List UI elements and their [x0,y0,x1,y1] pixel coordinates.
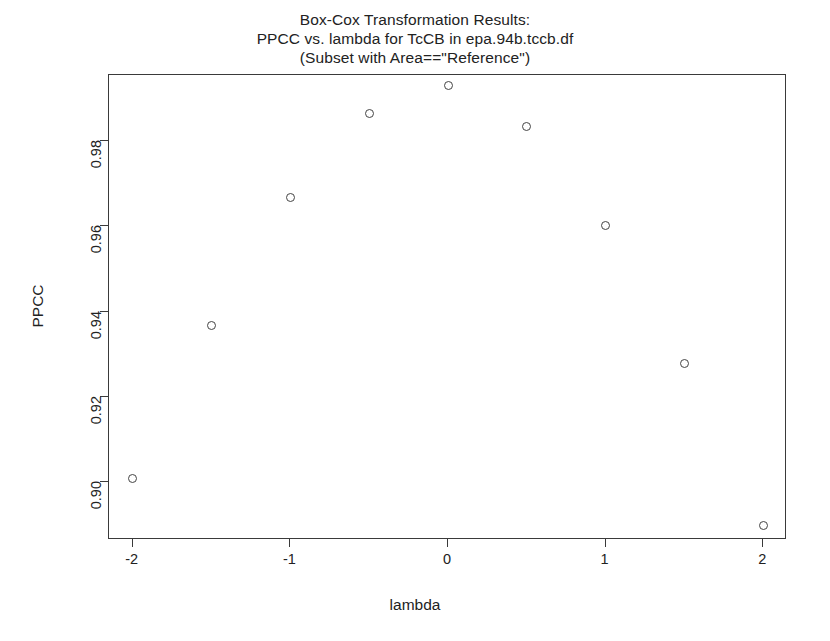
data-point [365,109,374,118]
y-axis-tick-label: 0.96 [88,225,104,253]
x-axis-tick-label: 2 [758,551,766,567]
chart-title: Box-Cox Transformation Results: PPCC vs.… [0,10,830,67]
x-axis-tick-label: -2 [125,551,138,567]
y-axis-tick-label: 0.94 [88,311,104,339]
x-axis-tick [605,539,606,547]
y-axis-tick-label: 0.98 [88,140,104,168]
x-axis: -2-1012 [108,539,786,579]
data-point [128,474,137,483]
figure-canvas: Box-Cox Transformation Results: PPCC vs.… [0,0,830,641]
data-point [444,81,453,90]
y-axis-tick-label: 0.92 [88,396,104,424]
data-point [601,221,610,230]
data-point [680,359,689,368]
x-axis-tick [289,539,290,547]
data-point [207,321,216,330]
y-axis-title: PPCC [29,284,47,327]
x-axis-tick-label: 1 [601,551,609,567]
x-axis-tick [132,539,133,547]
x-axis-tick [762,539,763,547]
chart-title-line-2: PPCC vs. lambda for TcCB in epa.94b.tccb… [0,29,830,48]
data-points-layer [109,75,785,538]
plot-area [108,74,786,539]
x-axis-title: lambda [0,596,830,614]
data-point [522,122,531,131]
chart-title-line-3: (Subset with Area=="Reference") [0,48,830,67]
x-axis-tick-label: 0 [443,551,451,567]
chart-title-line-1: Box-Cox Transformation Results: [0,10,830,29]
x-axis-tick-label: -1 [283,551,296,567]
x-axis-tick [447,539,448,547]
data-point [759,521,768,530]
y-axis-tick-label: 0.90 [88,481,104,509]
data-point [286,193,295,202]
